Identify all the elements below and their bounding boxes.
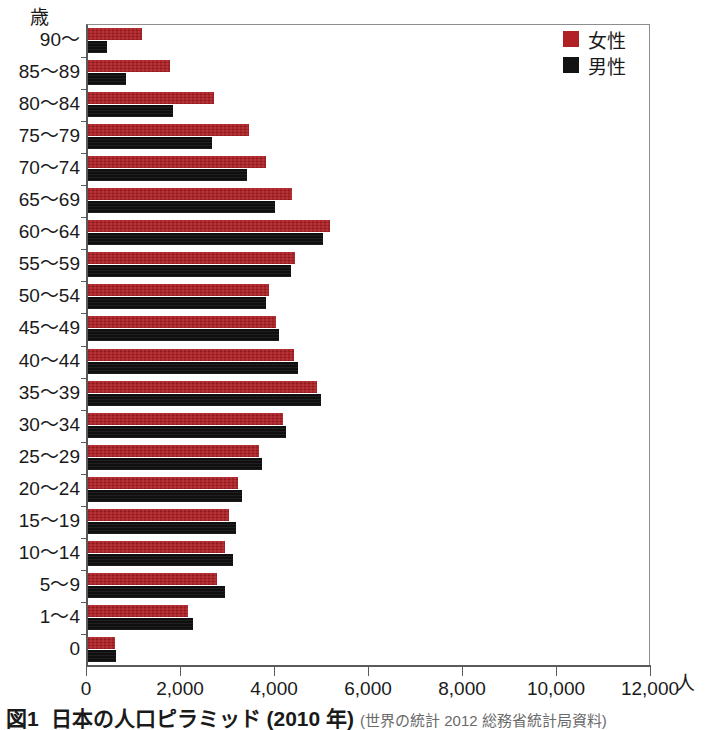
pyramid-row	[88, 602, 649, 634]
y-axis-tick-label: 10〜14	[2, 543, 80, 562]
bar-female	[88, 509, 229, 521]
y-axis-tick-label: 65〜69	[2, 190, 80, 209]
y-axis-tick-label: 20〜24	[2, 479, 80, 498]
y-axis-tick	[81, 153, 88, 154]
y-axis-tick-label: 35〜39	[2, 383, 80, 402]
caption-number: 図1	[6, 707, 39, 730]
bar-female	[88, 541, 225, 553]
pyramid-row	[88, 634, 649, 666]
y-axis-tick	[81, 346, 88, 347]
population-pyramid-figure: 歳 90〜85〜8980〜8475〜7970〜7465〜6960〜6455〜59…	[0, 0, 727, 730]
bar-female	[88, 381, 317, 393]
x-axis-tick	[462, 667, 463, 676]
bar-male	[88, 329, 279, 341]
bar-male	[88, 650, 116, 662]
legend-item: 男性	[563, 52, 626, 78]
y-axis-tick	[81, 474, 88, 475]
x-axis-tick-label: 4,000	[250, 678, 298, 700]
pyramid-row	[88, 89, 649, 121]
y-axis-tick-label: 15〜19	[2, 511, 80, 530]
y-axis-tick	[81, 538, 88, 539]
figure-caption: 図1日本の人口ピラミッド (2010 年)(世界の統計 2012 総務省統計局資…	[6, 702, 607, 730]
y-axis-tick	[81, 410, 88, 411]
bar-male	[88, 458, 262, 470]
y-axis-tick	[81, 121, 88, 122]
bar-female	[88, 188, 292, 200]
x-axis-tick-label: 8,000	[438, 678, 486, 700]
bar-male	[88, 297, 266, 309]
bar-male	[88, 169, 247, 181]
pyramid-row	[88, 185, 649, 217]
bar-male	[88, 201, 275, 213]
y-axis-tick	[81, 185, 88, 186]
x-axis-tick-label: 12,000	[621, 678, 679, 700]
bar-female	[88, 60, 170, 72]
pyramid-row	[88, 506, 649, 538]
legend-item: 女性	[563, 26, 626, 52]
x-axis-unit-label: 人	[676, 668, 695, 695]
bar-male	[88, 105, 173, 117]
bar-female	[88, 349, 294, 361]
y-axis-tick	[81, 378, 88, 379]
bar-female	[88, 637, 115, 649]
pyramid-row	[88, 121, 649, 153]
y-axis-tick-label: 40〜44	[2, 351, 80, 370]
pyramid-row	[88, 153, 649, 185]
x-axis-tick-label: 0	[81, 678, 92, 700]
pyramid-row	[88, 474, 649, 506]
y-axis-tick-label: 55〜59	[2, 254, 80, 273]
bar-female	[88, 252, 295, 264]
y-axis-tick-label: 0	[2, 639, 80, 658]
bar-female	[88, 220, 330, 232]
x-axis-tick	[650, 667, 651, 676]
x-axis-tick	[368, 667, 369, 676]
legend-label: 女性	[588, 26, 626, 53]
y-axis-tick-label: 1〜4	[2, 607, 80, 626]
y-axis-tick-label: 25〜29	[2, 447, 80, 466]
bar-female	[88, 477, 238, 489]
y-axis-tick-label: 60〜64	[2, 222, 80, 241]
pyramid-row	[88, 281, 649, 313]
y-axis-tick	[81, 281, 88, 282]
bar-female	[88, 316, 276, 328]
y-axis-tick	[81, 89, 88, 90]
x-axis-tick	[556, 667, 557, 676]
y-axis-tick-label: 75〜79	[2, 126, 80, 145]
x-axis-tick	[274, 667, 275, 676]
x-axis-tick-label: 2,000	[156, 678, 204, 700]
bar-male	[88, 265, 291, 277]
x-axis-tick	[180, 667, 181, 676]
bar-male	[88, 41, 107, 53]
bar-female	[88, 284, 269, 296]
y-axis-tick	[81, 313, 88, 314]
y-axis-tick	[81, 602, 88, 603]
pyramid-row	[88, 538, 649, 570]
pyramid-row	[88, 442, 649, 474]
legend-swatch-female	[563, 31, 579, 47]
bar-female	[88, 92, 214, 104]
y-axis-tick-label: 90〜	[2, 30, 80, 49]
y-axis-tick-label: 30〜34	[2, 415, 80, 434]
bar-female	[88, 124, 249, 136]
y-axis-tick	[81, 442, 88, 443]
x-axis-tick-label: 10,000	[527, 678, 585, 700]
y-axis-unit-label: 歳	[30, 2, 49, 29]
bar-female	[88, 156, 266, 168]
pyramid-row	[88, 570, 649, 602]
pyramid-row	[88, 313, 649, 345]
caption-title: 日本の人口ピラミッド (2010 年)	[51, 707, 354, 730]
bar-male	[88, 137, 212, 149]
pyramid-row	[88, 346, 649, 378]
legend: 女性男性	[563, 26, 626, 78]
bar-male	[88, 426, 286, 438]
bar-female	[88, 605, 188, 617]
y-axis-tick-label: 50〜54	[2, 286, 80, 305]
y-axis-tick	[81, 570, 88, 571]
pyramid-row	[88, 410, 649, 442]
bar-male	[88, 554, 233, 566]
bar-male	[88, 394, 321, 406]
x-axis: 02,0004,0006,0008,00010,00012,000	[86, 665, 651, 667]
x-axis-tick	[86, 667, 87, 676]
bar-female	[88, 445, 259, 457]
y-axis-tick	[81, 217, 88, 218]
